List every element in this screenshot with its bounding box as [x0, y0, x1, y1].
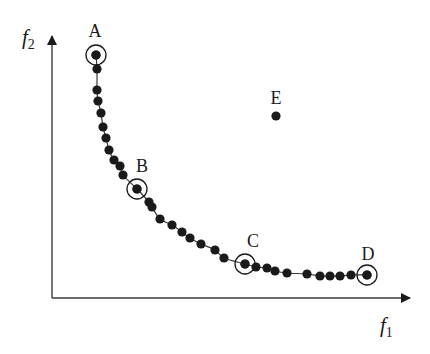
front-point [185, 233, 194, 242]
front-point [302, 269, 311, 278]
front-point [346, 270, 355, 279]
point-d: D [357, 244, 377, 285]
front-point [92, 85, 101, 94]
point-dot [91, 50, 100, 59]
front-point [282, 268, 291, 277]
front-point [98, 122, 107, 131]
front-point [104, 145, 113, 154]
point-label: B [136, 156, 148, 176]
front-point [335, 271, 344, 280]
front-point [101, 133, 110, 142]
front-point [155, 214, 164, 223]
point-label: D [362, 244, 375, 264]
point-dot [240, 259, 249, 268]
pareto-diagram: f2 f1 ABCDE [0, 0, 430, 354]
front-point [92, 64, 101, 73]
front-point [210, 245, 219, 254]
front-point [93, 96, 102, 105]
front-point [147, 202, 156, 211]
front-point [96, 108, 105, 117]
point-e: E [271, 88, 282, 121]
y-axis-label: f2 [22, 25, 35, 52]
front-point [325, 271, 334, 280]
labeled-points: ABCDE [86, 21, 377, 285]
point-dot [132, 184, 141, 193]
point-label: A [89, 21, 102, 41]
point-dot [271, 111, 280, 120]
pareto-front-points [91, 50, 371, 280]
axes [52, 36, 410, 298]
front-point [196, 239, 205, 248]
front-point [177, 227, 186, 236]
point-a: A [86, 21, 106, 65]
front-point [118, 170, 127, 179]
point-label: C [247, 231, 259, 251]
front-point [315, 271, 324, 280]
front-point [262, 263, 271, 272]
front-point [115, 161, 124, 170]
front-point [219, 253, 228, 262]
point-dot [362, 270, 371, 279]
front-point [270, 266, 279, 275]
point-b: B [127, 156, 148, 199]
point-label: E [271, 88, 282, 108]
front-point [167, 220, 176, 229]
x-axis-label: f1 [380, 313, 393, 340]
